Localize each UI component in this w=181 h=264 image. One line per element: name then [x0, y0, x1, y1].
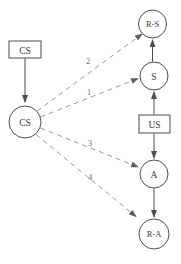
edge-label-1: 1	[87, 87, 91, 97]
edge-cs-to-rs-dashed	[37, 34, 142, 111]
node-s-circle: S	[140, 62, 168, 90]
edge-label-3: 3	[88, 138, 92, 148]
node-rs-circle: R-S	[139, 10, 167, 38]
node-a-circle: A	[140, 160, 168, 188]
node-cs-box: CS	[9, 41, 41, 58]
rs-circle-label: R-S	[146, 19, 160, 29]
a-circle-label: A	[151, 170, 158, 180]
s-circle-label: S	[151, 72, 156, 82]
flow-diagram: 2 1 3 4 CS CS R-S S US	[0, 0, 181, 264]
node-ra-circle: R-A	[139, 219, 169, 249]
us-box-label: US	[148, 120, 160, 130]
cs-circle-label: CS	[19, 118, 31, 128]
node-us-box: US	[139, 115, 170, 133]
diagram-canvas: 2 1 3 4 CS CS R-S S US	[0, 0, 181, 264]
cs-box-label: CS	[19, 46, 31, 56]
ra-circle-label: R-A	[147, 229, 163, 239]
edge-label-2: 2	[86, 56, 90, 66]
node-cs-circle: CS	[9, 106, 41, 138]
edge-cs-to-ra-dashed	[36, 135, 136, 217]
